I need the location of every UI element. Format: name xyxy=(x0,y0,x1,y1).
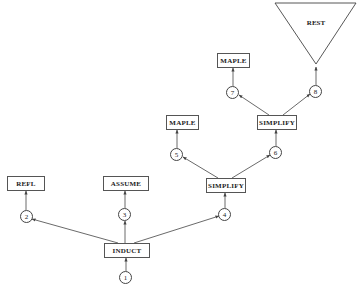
node-induct-label: INDUCT xyxy=(113,247,142,255)
node-maple-upper: MAPLE xyxy=(217,53,250,68)
branch-2: 2 xyxy=(20,210,33,223)
node-maple-upper-label: MAPLE xyxy=(220,57,246,65)
branch-5: 5 xyxy=(170,148,183,161)
branch-1: 1 xyxy=(119,271,132,284)
branch-6: 6 xyxy=(269,146,282,159)
node-maple-lower-label: MAPLE xyxy=(169,119,195,127)
node-assume-label: ASSUME xyxy=(111,180,141,188)
branch-5-label: 5 xyxy=(175,151,179,159)
edge-induct-b2 xyxy=(32,219,118,243)
edge-simplify2-b8 xyxy=(283,94,310,115)
branch-7: 7 xyxy=(226,86,239,99)
node-simplify-upper: SIMPLIFY xyxy=(257,115,297,130)
node-simplify-upper-label: SIMPLIFY xyxy=(259,119,295,127)
branch-3-label: 3 xyxy=(123,211,127,219)
node-assume: ASSUME xyxy=(103,176,149,191)
branch-3: 3 xyxy=(118,208,131,221)
node-refl: REFL xyxy=(7,176,45,191)
node-induct: INDUCT xyxy=(104,243,150,258)
branch-4: 4 xyxy=(218,208,231,221)
edges-layer xyxy=(0,0,359,288)
branch-8-label: 8 xyxy=(314,88,318,96)
node-rest-label: REST xyxy=(296,19,336,27)
edge-simplify1-b6 xyxy=(232,155,270,178)
branch-8: 8 xyxy=(309,85,322,98)
edge-induct-b4 xyxy=(134,216,219,243)
edge-simplify1-b5 xyxy=(183,157,218,178)
branch-6-label: 6 xyxy=(274,149,278,157)
branch-1-label: 1 xyxy=(124,274,128,282)
branch-7-label: 7 xyxy=(231,89,235,97)
proof-tree-diagram: INDUCT REFL ASSUME SIMPLIFY MAPLE SIMPLI… xyxy=(0,0,359,288)
node-simplify-lower-label: SIMPLIFY xyxy=(208,182,244,190)
node-simplify-lower: SIMPLIFY xyxy=(206,178,246,193)
node-maple-lower: MAPLE xyxy=(166,115,199,130)
branch-4-label: 4 xyxy=(223,211,227,219)
branch-2-label: 2 xyxy=(25,213,29,221)
rest-subtree-triangle xyxy=(275,3,356,64)
edge-simplify2-b7 xyxy=(239,95,269,115)
node-refl-label: REFL xyxy=(16,180,35,188)
